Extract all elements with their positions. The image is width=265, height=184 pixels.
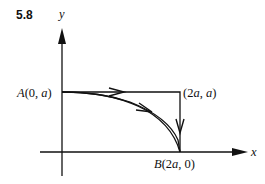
x-axis-label: x bbox=[250, 145, 257, 159]
diagram-canvas: 5.8 y x A(0, a) (2a, a) B(2a, 0) bbox=[0, 0, 265, 184]
curved-path bbox=[62, 92, 180, 152]
figure-number: 5.8 bbox=[16, 8, 33, 22]
curve-arrow-icon bbox=[136, 103, 152, 112]
point-a-label: A(0, a) bbox=[16, 86, 52, 100]
rectangular-path bbox=[62, 88, 184, 152]
y-axis-arrow-icon bbox=[58, 28, 66, 44]
y-axis-label: y bbox=[57, 7, 65, 21]
corner-point-label: (2a, a) bbox=[183, 86, 216, 100]
point-b-label: B(2a, 0) bbox=[154, 157, 195, 171]
x-axis-arrow-icon bbox=[232, 148, 248, 156]
x-axis: x bbox=[40, 145, 257, 159]
